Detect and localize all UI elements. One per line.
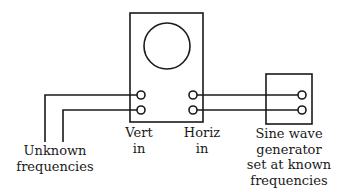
horiz-label-line2: in: [177, 141, 227, 157]
vert-label-line1: Vert: [114, 125, 164, 141]
generator-label-line3: set at known: [244, 157, 334, 173]
generator-terminal-top: [298, 91, 306, 99]
generator-label-line2: generator: [244, 142, 334, 158]
vert-in-label: Vert in: [114, 125, 164, 156]
vert-label-line2: in: [114, 141, 164, 157]
vert-in-terminal-bottom: [137, 106, 145, 114]
horiz-in-terminal-top: [189, 91, 197, 99]
generator-terminal-bottom: [298, 106, 306, 114]
generator-label: Sine wave generator set at known frequen…: [244, 126, 334, 188]
vert-in-terminal-top: [137, 91, 145, 99]
generator-label-line4: frequencies: [244, 173, 334, 189]
horiz-in-label: Horiz in: [177, 125, 227, 156]
unknown-label-line1: Unknown: [2, 143, 108, 159]
horiz-label-line1: Horiz: [177, 125, 227, 141]
unknown-label-line2: frequencies: [2, 159, 108, 175]
generator-label-line1: Sine wave: [244, 126, 334, 142]
horiz-in-terminal-bottom: [189, 106, 197, 114]
unknown-frequencies-label: Unknown frequencies: [2, 143, 108, 174]
generator-body: [266, 74, 312, 124]
oscilloscope-screen: [144, 23, 190, 69]
